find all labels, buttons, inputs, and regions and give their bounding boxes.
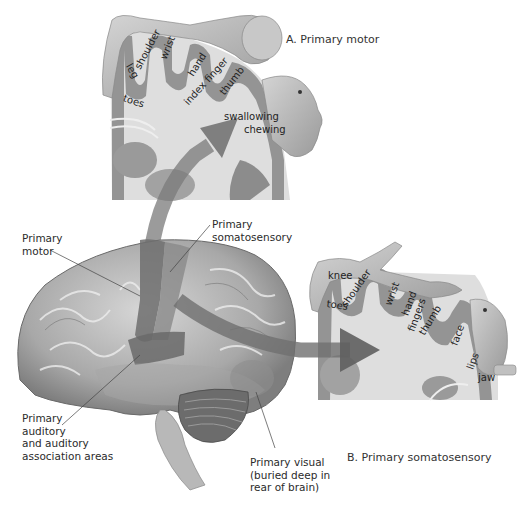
brain-diagram: A. Primary motor B. Primary somatosensor… [0, 0, 532, 513]
label-primary-visual: Primary visual (buried deep in rear of b… [250, 456, 330, 494]
caption-primary-somatosensory: B. Primary somatosensory [347, 451, 491, 464]
label-knee: knee [328, 270, 352, 281]
label-jaw: jaw [478, 372, 495, 383]
label-primary-motor: Primary motor [22, 232, 63, 257]
label-chewing: chewing [244, 124, 286, 135]
label-swallowing: swallowing [224, 111, 279, 122]
label-primary-auditory: Primary auditory and auditory associatio… [22, 412, 113, 462]
label-primary-somatosensory: Primary somatosensory [212, 218, 292, 243]
caption-primary-motor: A. Primary motor [286, 33, 379, 46]
